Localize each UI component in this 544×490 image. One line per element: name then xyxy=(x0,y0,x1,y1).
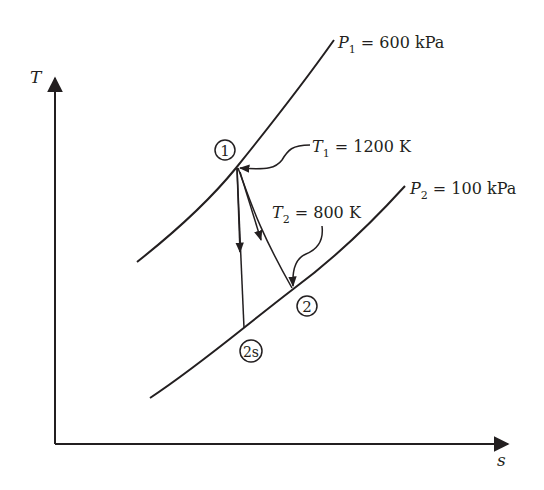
process-1-2-arrow-icon xyxy=(240,172,261,240)
state-1-label: 1 xyxy=(220,142,230,160)
isobar-p2-label: P2 = 100 kPa xyxy=(409,179,517,202)
state-2s-marker: 2s xyxy=(240,340,262,362)
y-axis-label: T xyxy=(30,67,43,87)
state-1-marker: 1 xyxy=(215,140,235,160)
annotation-t1-label: T1 = 1200 K xyxy=(312,137,412,160)
annotation-t2-label: T2 = 800 K xyxy=(272,203,362,226)
process-1-2 xyxy=(238,168,292,288)
process-1-2-line xyxy=(238,168,292,288)
state-2s-label: 2s xyxy=(243,344,259,360)
isobar-p1-label: P1 = 600 kPa xyxy=(337,33,445,56)
ts-diagram: T s P1 = 600 kPa P2 = 100 kPa T1 = 1200 … xyxy=(0,0,544,490)
annotation-t1: T1 = 1200 K xyxy=(240,137,412,169)
x-axis-label: s xyxy=(497,450,506,470)
state-2-label: 2 xyxy=(302,298,312,316)
state-2-marker: 2 xyxy=(297,296,317,316)
process-1-2s xyxy=(237,168,244,328)
